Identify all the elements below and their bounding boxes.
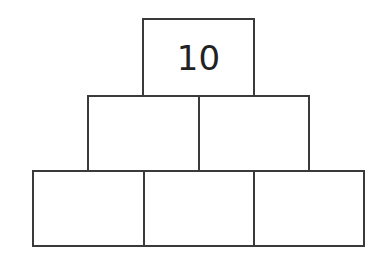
pyramid-top-brick[interactable]: 10 [142,18,255,97]
pyramid-row2-brick-right[interactable] [198,95,310,172]
pyramid-row3-brick-middle[interactable] [143,170,255,247]
pyramid-row2-brick-left[interactable] [87,95,200,172]
pyramid-row3-brick-right[interactable] [253,170,365,247]
pyramid-row3-brick-left[interactable] [32,170,145,247]
